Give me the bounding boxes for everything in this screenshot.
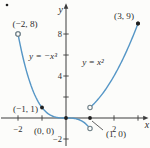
x-axis-label: x bbox=[144, 119, 150, 130]
textbook-figure-page: xy−2284−2y = −x³y = x²(−2, 8)(3, 9)(−1, … bbox=[0, 0, 150, 148]
scan-artifact-dot bbox=[6, 4, 9, 7]
point-marker-filled bbox=[64, 116, 68, 120]
point-marker-open bbox=[16, 32, 20, 36]
curve-neg-x-cubed bbox=[18, 34, 90, 129]
graph-canvas: xy−2284−2y = −x³y = x²(−2, 8)(3, 9)(−1, … bbox=[0, 0, 150, 148]
point-label: (1, 0) bbox=[106, 129, 126, 139]
point-label: (−1, 1) bbox=[13, 104, 38, 114]
point-marker-filled bbox=[40, 106, 44, 110]
y-tick-label--2: −2 bbox=[53, 134, 62, 144]
point-label: (3, 9) bbox=[114, 11, 134, 21]
x-tick-label--2: −2 bbox=[13, 124, 22, 134]
point-label: (−2, 8) bbox=[12, 19, 37, 29]
equation-label-x-squared: y = x² bbox=[81, 57, 104, 67]
y-tick-label-4: 4 bbox=[58, 71, 63, 81]
point-marker-filled bbox=[88, 116, 92, 120]
point-leader-line bbox=[92, 121, 103, 130]
open-endpoint-marker bbox=[88, 126, 92, 130]
point-marker-filled bbox=[136, 22, 140, 26]
y-axis-label: y bbox=[58, 4, 64, 15]
y-axis-arrowhead bbox=[64, 3, 69, 9]
y-tick-label-8: 8 bbox=[58, 29, 62, 39]
point-label: (0, 0) bbox=[34, 126, 54, 136]
equation-label-neg-x-cubed: y = −x³ bbox=[28, 51, 57, 61]
open-endpoint-marker bbox=[88, 105, 92, 109]
